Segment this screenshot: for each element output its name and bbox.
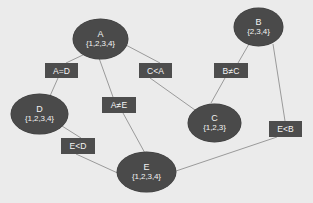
node-b[interactable]: B{2,3,4} (234, 8, 283, 46)
edge-B-to-BneC (238, 44, 249, 63)
node-e-domain-set: {1,2,3,4} (132, 173, 161, 181)
edge-CltA-to-C (150, 78, 195, 110)
edge-EltD-to-E (76, 154, 122, 175)
node-d-domain-set: {1,2,3,4} (25, 115, 54, 123)
edge-EltB-to-E (173, 137, 277, 172)
node-a[interactable]: A{1,2,3,4} (73, 19, 128, 59)
edge-D-to-EltD (62, 126, 81, 138)
node-b-domain-set: {2,3,4} (247, 28, 269, 36)
node-c-domain-set: {1,2,3} (203, 124, 225, 132)
constraint-label-b-c[interactable]: B≠C (214, 63, 248, 78)
edge-A-to-AeqD (66, 54, 85, 63)
edge-B-to-EltB (273, 44, 285, 121)
constraint-label-c-a[interactable]: C<A (139, 63, 172, 78)
edge-AeqD-to-D (50, 78, 58, 96)
constraint-label-a-e[interactable]: A≠E (102, 97, 136, 113)
edge-AneE-to-E (123, 113, 146, 155)
constraint-label-a-d[interactable]: A=D (45, 63, 78, 78)
edge-A-to-AneE (99, 58, 113, 97)
node-a-domain-set: {1,2,3,4} (86, 40, 115, 48)
edge-BneC-to-C (211, 78, 225, 103)
edge-A-to-CltA (124, 44, 160, 63)
constraint-label-e-d[interactable]: E<D (61, 138, 95, 154)
diagram-canvas: A{1,2,3,4}B{2,3,4}D{1,2,3,4}C{1,2,3}E{1,… (0, 0, 313, 203)
node-d[interactable]: D{1,2,3,4} (11, 94, 68, 134)
constraint-label-e-b[interactable]: E<B (269, 121, 302, 137)
node-c[interactable]: C{1,2,3} (188, 104, 241, 142)
node-e[interactable]: E{1,2,3,4} (117, 152, 176, 192)
